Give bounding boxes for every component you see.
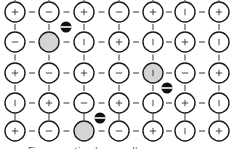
lattice-site — [175, 2, 195, 22]
lattice-site — [5, 32, 25, 52]
lattice-site — [143, 121, 163, 141]
vacancy-site — [39, 32, 59, 52]
lattice-site — [109, 2, 129, 22]
vacancy-site — [74, 121, 94, 141]
lattice-site — [74, 93, 94, 113]
lattice-site — [109, 32, 129, 52]
hole-icon — [95, 113, 106, 124]
lattice-site — [175, 63, 195, 83]
lattice-site — [5, 63, 25, 83]
lattice-site — [5, 2, 25, 22]
lattice-site — [209, 121, 229, 141]
lattice-site — [74, 2, 94, 22]
lattice-site — [39, 93, 59, 113]
hole-icon — [61, 22, 72, 33]
lattice-site — [209, 32, 229, 52]
lattice-site — [5, 93, 25, 113]
lattice-site — [209, 93, 229, 113]
lattice-site — [175, 121, 195, 141]
lattice-diagram — [0, 0, 233, 149]
lattice-site — [143, 2, 163, 22]
lattice-site — [109, 121, 129, 141]
lattice-site — [143, 32, 163, 52]
lattice-site — [39, 121, 59, 141]
lattice-site — [74, 32, 94, 52]
hole-icon — [162, 83, 173, 94]
figure-caption: Figure caption (cropped) — [28, 146, 138, 149]
lattice-sites — [5, 2, 229, 141]
lattice-site — [39, 63, 59, 83]
lattice-site — [109, 93, 129, 113]
lattice-site — [209, 63, 229, 83]
lattice-site — [5, 121, 25, 141]
lattice-site — [109, 63, 129, 83]
lattice-site — [74, 63, 94, 83]
lattice-site — [209, 2, 229, 22]
vacancy-site — [143, 63, 163, 83]
lattice-site — [175, 32, 195, 52]
lattice-site — [39, 2, 59, 22]
lattice-site — [175, 93, 195, 113]
lattice-site — [143, 93, 163, 113]
